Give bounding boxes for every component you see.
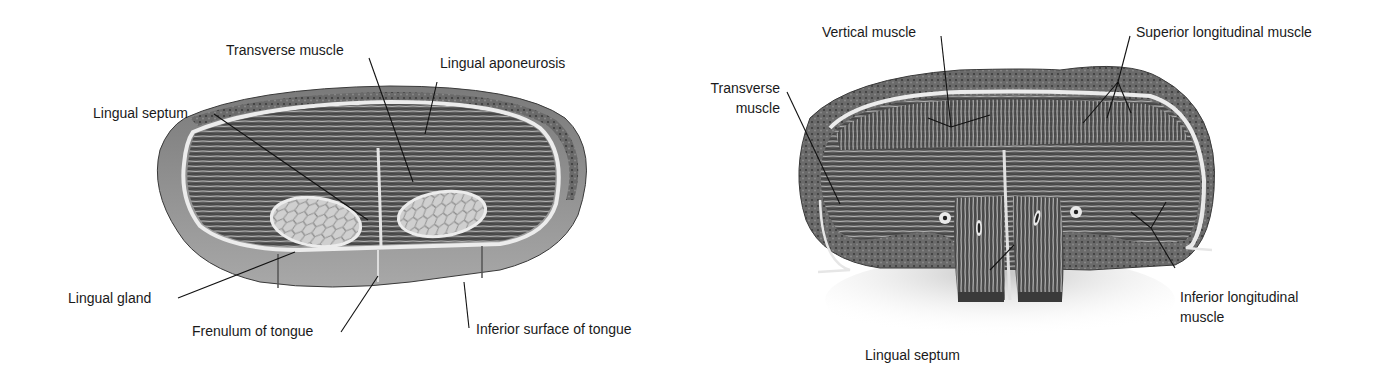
label-lingual-aponeurosis: Lingual aponeurosis — [440, 55, 565, 72]
label-inferior-longitudinal-muscle-line2: muscle — [1180, 309, 1224, 326]
label-superior-longitudinal-muscle: Superior longitudinal muscle — [1136, 24, 1312, 41]
label-transverse-muscle-right-line2: muscle — [692, 100, 780, 117]
label-frenulum-of-tongue: Frenulum of tongue — [192, 323, 313, 340]
label-transverse-muscle-right-line1: Transverse — [692, 80, 780, 97]
label-transverse-muscle-left: Transverse muscle — [226, 42, 344, 59]
label-lingual-septum-right: Lingual septum — [865, 347, 960, 364]
right-tongue-section — [799, 66, 1215, 345]
label-lingual-septum-left: Lingual septum — [93, 105, 188, 122]
label-lingual-gland: Lingual gland — [68, 290, 151, 307]
tongue-cross-section-figure: Transverse muscle Lingual aponeurosis Li… — [0, 0, 1380, 381]
left-tongue-section — [157, 86, 586, 288]
label-inferior-surface-of-tongue: Inferior surface of tongue — [476, 321, 632, 338]
label-inferior-longitudinal-muscle-line1: Inferior longitudinal — [1180, 289, 1298, 306]
label-vertical-muscle: Vertical muscle — [822, 24, 916, 41]
